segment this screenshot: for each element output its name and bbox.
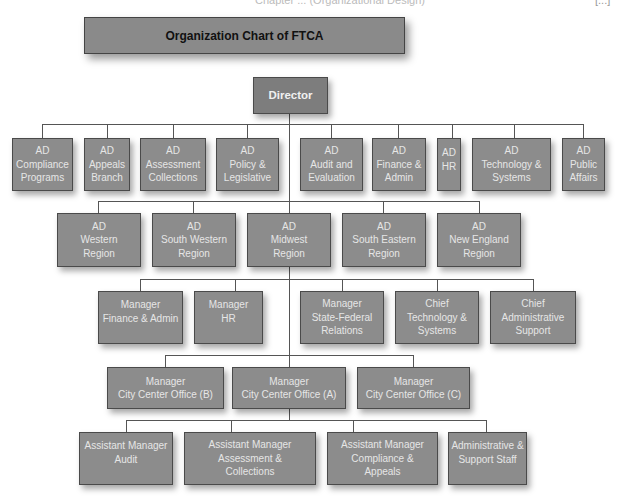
box-line: Compliance (16, 158, 69, 172)
box-line: AD (187, 220, 201, 234)
org-box-ad-assessment-collections: ADAssessmentCollections (140, 138, 206, 191)
box-line: AD (92, 220, 106, 234)
org-box-ad-new-england-region: ADNew EnglandRegion (437, 213, 521, 267)
box-line: Technology & (481, 158, 541, 172)
box-line: Compliance & (351, 452, 413, 466)
box-line: Programs (21, 171, 64, 185)
box-line: AD (505, 144, 519, 158)
connector (173, 124, 174, 138)
director-label: Director (268, 89, 312, 103)
box-line: Assistant Manager (341, 438, 424, 452)
box-line: Policy & (229, 158, 265, 172)
connector (247, 124, 248, 138)
connector (437, 279, 438, 291)
org-box-assistant-manager-compliance-appeals: Assistant ManagerCompliance &Appeals (327, 432, 438, 485)
org-box-ad-south-eastern-region: ADSouth EasternRegion (342, 213, 426, 267)
box-line: Manager (121, 298, 160, 312)
connector (398, 124, 399, 138)
box-line: AD (36, 144, 50, 158)
connector (126, 420, 486, 421)
director-box: Director (253, 77, 328, 114)
connector (353, 420, 354, 432)
org-box-ad-midwest-region: ADMidwestRegion (247, 213, 331, 267)
connector (486, 420, 487, 432)
box-line: HR (442, 160, 456, 174)
box-line: South Eastern (352, 233, 415, 247)
connector (140, 279, 533, 280)
box-line: Western (80, 233, 117, 247)
box-line: Support Staff (458, 453, 516, 467)
box-line: Chief (521, 297, 544, 311)
connector (165, 355, 414, 356)
page-header-right: [...] (595, 0, 610, 6)
org-box-manager-finance-admin: ManagerFinance & Admin (98, 291, 183, 344)
box-line: Manager (146, 375, 185, 389)
box-line: AD (472, 220, 486, 234)
box-line: AD (282, 220, 296, 234)
connector (98, 201, 479, 202)
box-line: Systems (492, 171, 530, 185)
connector (413, 355, 414, 367)
box-line: Region (463, 247, 495, 261)
box-line: Finance & (376, 158, 421, 172)
connector (42, 124, 583, 125)
box-line: New England (449, 233, 508, 247)
box-line: AD (577, 144, 591, 158)
org-box-ad-technology-systems: ADTechnology &Systems (472, 138, 551, 191)
box-line: Manager (209, 298, 248, 312)
box-line: South Western (161, 233, 227, 247)
box-line: Manager (322, 297, 361, 311)
box-line: AD (325, 144, 339, 158)
box-line: Relations (321, 324, 363, 338)
box-line: AD (166, 144, 180, 158)
org-box-chief-technology-systems: ChiefTechnology &Systems (395, 291, 479, 344)
box-line: State-Federal (312, 311, 373, 325)
box-line: Manager (394, 375, 433, 389)
connector (42, 124, 43, 138)
box-line: Midwest (271, 233, 308, 247)
org-box-ad-audit-evaluation: ADAudit andEvaluation (300, 138, 363, 191)
connector (165, 355, 166, 367)
org-box-ad-public-affairs: ADPublicAffairs (562, 138, 605, 191)
box-line: Branch (91, 171, 123, 185)
org-box-manager-hr: ManagerHR (194, 291, 263, 344)
box-line: Collections (149, 171, 198, 185)
org-box-ad-finance-admin: ADFinance &Admin (372, 138, 426, 191)
box-line: Technology & (407, 311, 467, 325)
box-line: Region (83, 247, 115, 261)
box-line: Systems (418, 324, 456, 338)
box-line: Legislative (224, 171, 271, 185)
box-line: Audit (115, 453, 138, 467)
box-line: Region (273, 247, 305, 261)
connector (331, 124, 332, 138)
connector (126, 420, 127, 432)
box-line: Assessment (146, 158, 200, 172)
connector (479, 201, 480, 213)
box-line: Audit and (310, 158, 352, 172)
connector (107, 124, 108, 138)
connector (235, 279, 236, 291)
org-box-manager-city-center-office-a: ManagerCity Center Office (A) (232, 367, 346, 409)
connector (140, 279, 141, 291)
org-box-ad-western-region: ADWesternRegion (57, 213, 141, 267)
connector (98, 201, 99, 213)
box-line: City Center Office (A) (242, 388, 337, 402)
box-line: Support (515, 324, 550, 338)
box-line: Assistant Manager (85, 439, 168, 453)
org-box-manager-city-center-office-c: ManagerCity Center Office (C) (357, 367, 470, 409)
box-line: Evaluation (308, 171, 355, 185)
connector (289, 408, 290, 420)
box-line: Admin (385, 171, 413, 185)
org-box-manager-city-center-office-b: ManagerCity Center Office (B) (107, 367, 224, 409)
connector (193, 201, 194, 213)
box-line: Appeals (364, 465, 400, 479)
org-box-ad-policy-legislative: ADPolicy &Legislative (216, 138, 279, 191)
connector (289, 113, 290, 213)
box-line: AD (392, 144, 406, 158)
org-box-chief-administrative-support: ChiefAdministrativeSupport (490, 291, 576, 344)
connector (342, 279, 343, 291)
page-header-left: Chapter ... (Organizational Design) (255, 0, 425, 6)
box-line: Affairs (569, 171, 597, 185)
box-line: Administrative & (451, 439, 523, 453)
chart-title: Organization Chart of FTCA (84, 17, 405, 54)
